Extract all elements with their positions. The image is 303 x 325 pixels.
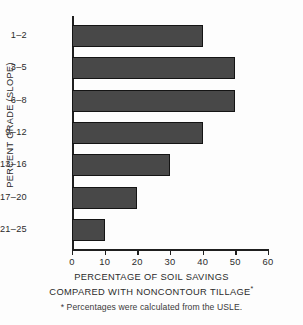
category-label: 1–2 — [0, 30, 27, 40]
x-tick — [137, 250, 138, 255]
bar-fill — [72, 57, 235, 79]
category-label: 13–16 — [0, 159, 27, 169]
bar — [72, 187, 137, 209]
category-label: 21–25 — [0, 224, 27, 234]
bar-fill — [72, 122, 203, 144]
x-tick-label: 20 — [122, 256, 152, 267]
category-label: 17–20 — [0, 192, 27, 202]
bar — [72, 25, 203, 47]
bar-fill — [72, 154, 170, 176]
x-tick-label: 40 — [188, 256, 218, 267]
x-axis-title-line2: COMPARED WITH NONCONTOUR TILLAGE* — [0, 283, 303, 298]
x-tick-label: 50 — [220, 256, 250, 267]
x-tick — [268, 250, 269, 255]
x-tick-label: 0 — [57, 256, 87, 267]
x-tick-label: 30 — [155, 256, 185, 267]
footnote: * Percentages were calculated from the U… — [0, 302, 303, 312]
bar — [72, 57, 235, 79]
category-label: 6–8 — [0, 95, 27, 105]
bar — [72, 154, 170, 176]
bar — [72, 219, 105, 241]
x-axis-title-line2-text: COMPARED WITH NONCONTOUR TILLAGE — [49, 287, 250, 297]
x-tick — [235, 250, 236, 255]
bar — [72, 90, 235, 112]
x-tick-label: 10 — [90, 256, 120, 267]
x-tick-label: 60 — [253, 256, 283, 267]
category-label: 9–12 — [0, 127, 27, 137]
bar-chart-figure: PERCENT GRADE (SLOPE) 1–23–56–89–1213–16… — [0, 0, 303, 325]
category-label: 3–5 — [0, 62, 27, 72]
x-tick — [203, 250, 204, 255]
bar — [72, 122, 203, 144]
x-axis-title-asterisk: * — [251, 285, 254, 292]
bar-fill — [72, 25, 203, 47]
x-axis-title: PERCENTAGE OF SOIL SAVINGS COMPARED WITH… — [0, 271, 303, 298]
x-axis-title-line1: PERCENTAGE OF SOIL SAVINGS — [74, 272, 229, 282]
bar-fill — [72, 187, 137, 209]
bar-fill — [72, 90, 235, 112]
x-tick — [170, 250, 171, 255]
x-tick — [105, 250, 106, 255]
x-tick — [72, 250, 73, 255]
bar-fill — [72, 219, 105, 241]
